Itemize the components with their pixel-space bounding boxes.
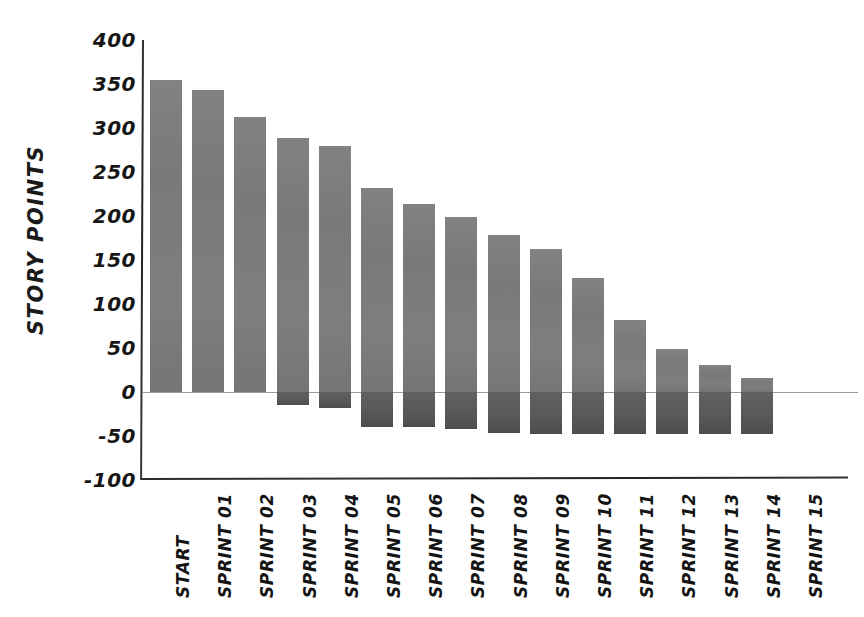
y-tick-label: 100: [64, 292, 136, 316]
bar-group[interactable]: [741, 40, 773, 480]
x-tick-label: SPRINT 13: [722, 493, 742, 598]
bar-positive[interactable]: [572, 278, 604, 392]
bar-negative[interactable]: [656, 392, 688, 434]
bar-group[interactable]: [699, 40, 731, 480]
bar-positive[interactable]: [488, 235, 520, 392]
bar-negative[interactable]: [741, 392, 773, 434]
y-tick-label: 200: [64, 204, 136, 228]
x-tick-label: SPRINT 04: [342, 493, 362, 598]
y-tick-label: 400: [64, 28, 136, 52]
x-tick-label: SPRINT 08: [511, 493, 531, 598]
bar-negative[interactable]: [445, 392, 477, 429]
y-tick-label: -50: [64, 424, 136, 448]
bar-positive[interactable]: [530, 249, 562, 392]
plot-area: [142, 40, 848, 488]
x-tick-label: SPRINT 03: [300, 493, 320, 598]
burndown-chart: STORY POINTS 400350300250200150100500-50…: [0, 0, 864, 617]
bar-positive[interactable]: [361, 188, 393, 392]
bar-positive[interactable]: [319, 146, 351, 392]
y-axis-line: [140, 40, 144, 480]
bar-positive[interactable]: [150, 80, 182, 392]
x-axis-tick-labels: STARTSPRINT 01SPRINT 02SPRINT 03SPRINT 0…: [142, 494, 848, 614]
bar-group[interactable]: [488, 40, 520, 480]
x-tick-label: SPRINT 10: [595, 493, 615, 598]
bar-group[interactable]: [150, 40, 182, 480]
bar-positive[interactable]: [234, 117, 266, 392]
x-tick-label: SPRINT 07: [468, 493, 488, 598]
y-tick-label: -100: [64, 468, 136, 492]
y-tick-label: 0: [64, 380, 136, 404]
bar-group[interactable]: [277, 40, 309, 480]
x-tick-label: SPRINT 09: [553, 493, 573, 598]
bar-negative[interactable]: [614, 392, 646, 434]
y-tick-label: 300: [64, 116, 136, 140]
bar-positive[interactable]: [277, 138, 309, 392]
bar-positive[interactable]: [741, 378, 773, 392]
x-tick-label: SPRINT 01: [215, 493, 235, 598]
x-tick-label: SPRINT 15: [806, 493, 826, 598]
x-tick-label: SPRINT 11: [637, 493, 657, 598]
bar-group[interactable]: [614, 40, 646, 480]
bar-negative[interactable]: [403, 392, 435, 427]
bar-group[interactable]: [783, 40, 815, 480]
bar-negative[interactable]: [488, 392, 520, 433]
y-tick-label: 250: [64, 160, 136, 184]
x-tick-label: SPRINT 05: [384, 493, 404, 598]
bar-group[interactable]: [234, 40, 266, 480]
bar-group[interactable]: [656, 40, 688, 480]
x-tick-label: SPRINT 12: [679, 493, 699, 598]
y-tick-label: 50: [64, 336, 136, 360]
bar-positive[interactable]: [192, 90, 224, 392]
bar-negative[interactable]: [277, 392, 309, 405]
bar-group[interactable]: [192, 40, 224, 480]
bar-negative[interactable]: [699, 392, 731, 434]
y-axis-title: STORY POINTS: [14, 120, 58, 360]
bar-group[interactable]: [572, 40, 604, 480]
x-tick-label: START: [173, 535, 193, 598]
bar-group[interactable]: [403, 40, 435, 480]
bar-positive[interactable]: [699, 365, 731, 392]
bar-group[interactable]: [445, 40, 477, 480]
x-tick-label: SPRINT 06: [426, 493, 446, 598]
y-tick-label: 350: [64, 72, 136, 96]
bar-positive[interactable]: [403, 204, 435, 392]
bar-group[interactable]: [319, 40, 351, 480]
bar-negative[interactable]: [530, 392, 562, 434]
bar-group[interactable]: [530, 40, 562, 480]
bar-positive[interactable]: [656, 349, 688, 392]
y-axis-tick-labels: 400350300250200150100500-50-100: [58, 0, 136, 617]
x-tick-label: SPRINT 14: [764, 493, 784, 598]
bar-negative[interactable]: [572, 392, 604, 434]
x-tick-label: SPRINT 02: [257, 493, 277, 598]
bar-positive[interactable]: [445, 217, 477, 392]
y-tick-label: 150: [64, 248, 136, 272]
bar-negative[interactable]: [319, 392, 351, 408]
bar-group[interactable]: [361, 40, 393, 480]
bar-negative[interactable]: [361, 392, 393, 427]
bar-positive[interactable]: [614, 320, 646, 392]
